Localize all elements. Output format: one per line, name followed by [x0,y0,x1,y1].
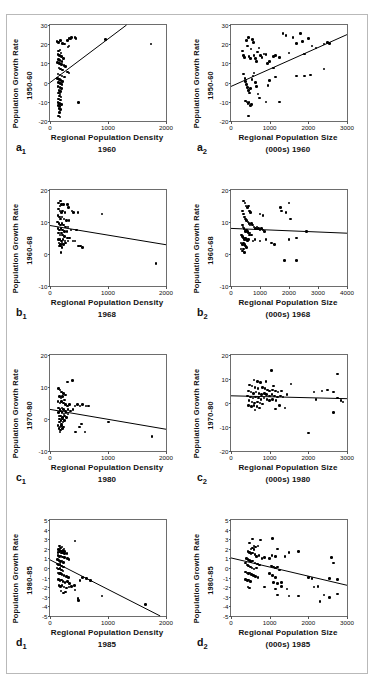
y-axis-title: Population Growth Rate [9,518,23,638]
y-tick-label: 30 [222,22,229,29]
x-tick-label: 1000 [101,124,115,131]
x-tick-label: 1000 [263,454,277,461]
panel-label-c1: c1 [16,471,26,486]
x-axis-period-label: (000s) 1968 [212,310,364,319]
x-tick-label: 0 [48,454,51,461]
chart-panel-b1: Population Growth Rate1960-6820100-10010… [7,180,188,345]
y-axis-period-text: 1960-68 [206,236,215,265]
plot-area-d1: 543210-1-2-3-4-5010002000 [49,519,167,617]
x-axis-title: Regional Population Density [31,628,183,637]
y-axis-title: Population Growth Rate [9,188,23,308]
y-tick-label: 0 [225,565,228,572]
y-tick-label: 2 [225,545,228,552]
y-tick-label: 0 [225,251,228,258]
y-tick-label: -10 [220,283,229,290]
chart-row: Population Growth Rate1980-85543210-1-2-… [7,510,369,675]
y-tick-label: 20 [41,41,48,48]
x-tick-label: 2000 [301,619,315,626]
y-axis-period-label: 1950-60 [22,35,36,135]
y-tick-label: -3 [223,593,229,600]
x-tick-label: 3000 [311,289,325,296]
regression-line [50,520,166,616]
y-tick-label: -20 [39,118,48,125]
y-tick-label: -10 [220,424,229,431]
x-tick-label: 2000 [159,619,173,626]
y-tick-label: 20 [41,352,48,359]
x-axis-title: Regional Population Density [31,463,183,472]
figure-panel-grid: Population Growth Rate1950-603020100-10-… [6,14,368,674]
y-axis-title-text: Population Growth Rate [12,368,21,458]
panel-label-d1: d1 [16,636,27,651]
chart-panel-d1: Population Growth Rate1980-85543210-1-2-… [7,510,188,675]
y-tick-label: 20 [222,352,229,359]
chart-panel-a1: Population Growth Rate1950-603020100-10-… [7,15,188,180]
x-tick-label: 3000 [340,124,354,131]
chart-panel-b2: Population Growth Rate1960-6820100-10010… [188,180,369,345]
plot-area-a1: 3020100-10-20010002000 [49,24,167,122]
x-tick-label: 2000 [159,124,173,131]
y-tick-label: 0 [44,416,47,423]
y-tick-label: -10 [39,98,48,105]
x-axis-period-label: 1960 [31,145,183,154]
y-axis-title-text: Population Growth Rate [12,38,21,128]
y-axis-period-text: 1970-80 [25,401,34,430]
x-tick-label: 0 [229,454,232,461]
x-axis-title: Regional Population Size [212,298,364,307]
y-axis-title-text: Population Growth Rate [193,38,202,128]
y-tick-label: -10 [39,448,48,455]
chart-panel-c1: Population Growth Rate1970-8020100-10010… [7,345,188,510]
x-axis-title: Regional Population Density [31,133,183,142]
x-tick-label: 2000 [159,454,173,461]
y-tick-label: 20 [222,41,229,48]
y-tick-label: -2 [223,584,229,591]
y-axis-period-label: 1970-80 [22,365,36,465]
y-axis-period-label: 1980-85 [203,530,217,630]
y-axis-title: Population Growth Rate [9,353,23,473]
y-axis-period-text: 1980-85 [206,566,215,595]
y-axis-period-text: 1950-60 [206,71,215,100]
y-tick-label: 20 [41,187,48,194]
y-tick-label: -3 [42,593,48,600]
x-tick-label: 0 [48,289,51,296]
regression-line [231,190,347,286]
y-axis-period-text: 1970-80 [206,401,215,430]
x-tick-label: 1000 [101,289,115,296]
y-tick-label: 0 [44,79,47,86]
y-tick-label: -4 [42,603,48,610]
y-tick-label: -2 [42,584,48,591]
x-tick-label: 0 [48,124,51,131]
y-tick-label: 20 [222,187,229,194]
y-axis-title: Population Growth Rate [190,353,204,473]
chart-row: Population Growth Rate1950-603020100-10-… [7,15,369,180]
plot-area-b1: 20100-10010002000 [49,189,167,287]
x-tick-label: 1000 [253,289,267,296]
y-tick-label: 1 [44,555,47,562]
y-axis-title-text: Population Growth Rate [193,533,202,623]
panel-label-a1: a1 [16,141,26,156]
y-tick-label: -4 [223,603,229,610]
y-tick-label: -1 [42,574,48,581]
x-axis-period-label: (000s) 1980 [212,475,364,484]
regression-line [231,520,347,616]
x-axis-period-label: (000s) 1960 [212,145,364,154]
chart-row: Population Growth Rate1970-8020100-10010… [7,345,369,510]
y-tick-label: -20 [220,448,229,455]
x-tick-label: 3000 [340,619,354,626]
x-tick-label: 2000 [301,124,315,131]
y-axis-title-text: Population Growth Rate [193,203,202,293]
x-axis-title: Regional Population Density [31,298,183,307]
x-tick-label: 4000 [340,289,354,296]
x-axis-title: Regional Population Size [212,463,364,472]
y-tick-label: 10 [222,219,229,226]
y-tick-label: 4 [225,526,228,533]
y-axis-title: Population Growth Rate [190,23,204,143]
x-tick-label: 2000 [301,454,315,461]
y-tick-label: 10 [41,60,48,67]
y-axis-title-text: Population Growth Rate [12,533,21,623]
plot-area-b2: 20100-1001000200030004000 [230,189,348,287]
y-tick-label: -20 [220,118,229,125]
y-tick-label: 2 [44,545,47,552]
y-axis-title: Population Growth Rate [9,23,23,143]
panel-label-a2: a2 [197,141,207,156]
y-axis-period-label: 1960-68 [22,200,36,300]
